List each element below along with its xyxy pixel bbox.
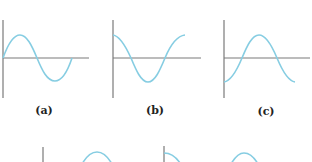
panel-c [224,20,310,98]
panel-e-curve-arc [231,153,258,162]
panel-e-partial [164,146,258,162]
waveform-figure [0,0,312,162]
panel-d-curve [82,152,112,162]
panel-a [3,20,89,98]
panel-b-label: (b) [146,104,164,117]
panel-b [113,20,201,98]
panel-a-label: (a) [35,104,53,117]
panel-c-label: (c) [257,105,274,118]
panel-d-partial [43,147,112,162]
panel-e-curve-start [164,153,180,162]
